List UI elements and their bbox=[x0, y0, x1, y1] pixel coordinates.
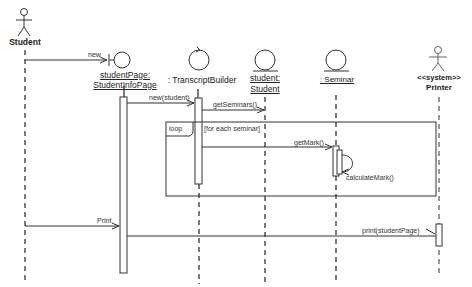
student-actor-icon bbox=[16, 9, 32, 37]
printer-label-line2: Printer bbox=[408, 83, 470, 92]
student-entity-label-line2: Student bbox=[245, 84, 285, 94]
message-get-seminars-label: getSeminars() bbox=[213, 101, 257, 108]
student-actor-label: Student bbox=[6, 37, 44, 47]
studentpage-activation bbox=[120, 97, 127, 273]
student-entity-label-line1: student: bbox=[245, 73, 285, 83]
message-calculate-mark-label: calculateMark() bbox=[346, 174, 394, 181]
control-icon bbox=[189, 47, 209, 70]
seminar-nested-activation bbox=[337, 150, 342, 174]
printer-actor-icon bbox=[429, 47, 447, 72]
message-get-mark-label: getMark() bbox=[294, 139, 324, 146]
message-new-student-label: new(student) bbox=[149, 94, 189, 101]
boundary-icon bbox=[109, 52, 130, 68]
message-calculate-mark bbox=[342, 155, 353, 172]
printer-label-line1: <<system>> bbox=[408, 73, 470, 82]
message-print-student-page-label: print(studentPage) bbox=[362, 227, 420, 234]
printer-activation bbox=[436, 224, 442, 246]
entity-icon bbox=[324, 50, 349, 71]
loop-fragment bbox=[166, 122, 436, 196]
loop-operator-label: loop bbox=[169, 125, 182, 132]
transcriptbuilder-activation bbox=[195, 98, 202, 184]
transcriptbuilder-label: : TranscriptBuilder bbox=[162, 75, 242, 85]
seminar-label: : Seminar bbox=[315, 75, 359, 84]
message-print-label: Print bbox=[97, 217, 111, 224]
studentpage-label-line2: StudentInfoPage bbox=[84, 80, 166, 90]
entity-icon bbox=[253, 50, 278, 71]
loop-guard-label: [for each seminar] bbox=[204, 125, 260, 132]
message-new-label: new bbox=[88, 51, 101, 58]
studentpage-label-line1: studentPage: bbox=[90, 70, 160, 80]
sequence-diagram bbox=[0, 0, 472, 287]
